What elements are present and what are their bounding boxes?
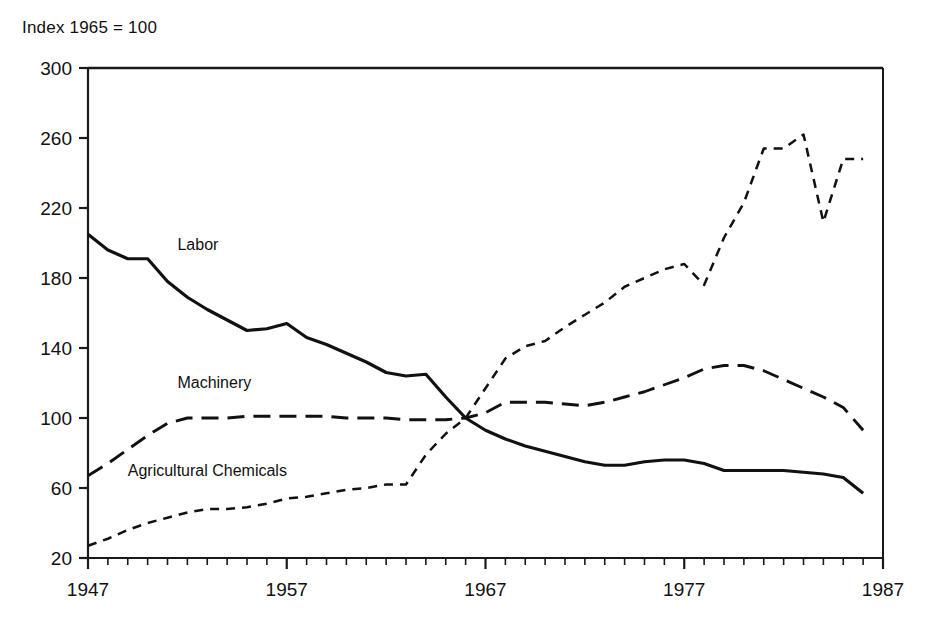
series-label-machinery: Machinery (177, 374, 251, 391)
chart-axes (88, 68, 883, 558)
y-tick-label: 220 (40, 198, 72, 219)
series-line-agricultural-chemicals (88, 135, 863, 546)
y-tick-label: 300 (40, 58, 72, 79)
y-tick-label: 60 (51, 478, 72, 499)
x-tick-label: 1967 (464, 579, 506, 600)
y-tick-label: 140 (40, 338, 72, 359)
series-label-agricultural-chemicals: Agricultural Chemicals (128, 462, 287, 479)
x-tick-label: 1987 (862, 579, 904, 600)
series-line-labor (88, 234, 863, 493)
data-series-group (88, 135, 863, 546)
chart-container: Index 1965 = 100 2060100140180220260300 … (0, 0, 933, 631)
series-inline-labels: LaborMachineryAgricultural Chemicals (128, 236, 287, 479)
x-tick-label: 1977 (663, 579, 705, 600)
y-tick-label: 20 (51, 548, 72, 569)
series-label-labor: Labor (177, 236, 219, 253)
line-chart-plot: 2060100140180220260300 19471957196719771… (0, 0, 933, 631)
y-tick-label: 180 (40, 268, 72, 289)
x-tick-label: 1947 (67, 579, 109, 600)
x-tick-label: 1957 (266, 579, 308, 600)
x-axis-tick-labels: 19471957196719771987 (67, 579, 904, 600)
y-tick-label: 100 (40, 408, 72, 429)
y-axis-tick-labels: 2060100140180220260300 (40, 58, 72, 569)
y-tick-label: 260 (40, 128, 72, 149)
axis-ticks (79, 68, 883, 569)
